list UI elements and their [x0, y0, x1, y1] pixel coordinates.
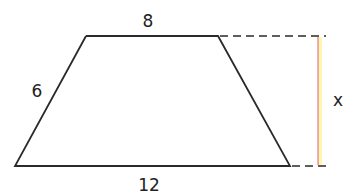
label-height: x	[333, 90, 343, 110]
trapezoid-outline	[15, 36, 290, 166]
label-top: 8	[143, 11, 154, 31]
label-left: 6	[32, 81, 43, 101]
label-bottom: 12	[138, 175, 160, 194]
trapezoid-diagram: 8 6 x 12	[0, 0, 360, 194]
